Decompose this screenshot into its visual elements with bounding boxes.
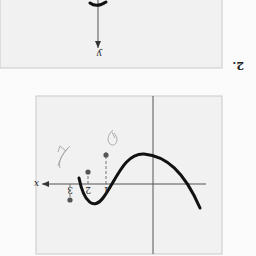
point-label-2: 2: [85, 185, 91, 195]
point-label-1: 1: [103, 185, 109, 195]
x-axis-label: x: [34, 179, 39, 189]
page-figure: 2. x 1 2 3: [0, 0, 256, 256]
point-3-marker: [67, 197, 72, 202]
point-label-3: 3: [67, 185, 73, 195]
upper-graph-panel: [0, 0, 222, 68]
point-2-marker: [85, 169, 90, 174]
exercise-number: 2.: [233, 59, 244, 72]
graph-panel: [36, 96, 222, 254]
point-1-marker: [103, 152, 108, 157]
y-axis-label: y: [96, 49, 103, 59]
scanned-page: 2. x 1 2 3: [0, 0, 256, 256]
